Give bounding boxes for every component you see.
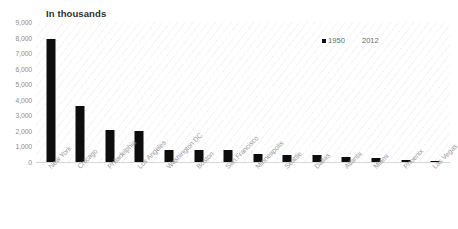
chart-legend: 19502012 [322,36,379,45]
y-axis-tick: 3,000 [15,112,32,119]
y-axis-tick: 5,000 [15,81,32,88]
bar-group [95,22,125,162]
y-axis-tick: 2,000 [15,127,32,134]
bar-group [36,22,66,162]
legend-label: 1950 [328,36,345,45]
x-axis: New YorkChicagoPhiladelphiaLos AngelesWa… [36,163,450,225]
chart-title: In thousands [46,8,106,19]
y-axis-tick: 8,000 [15,34,32,41]
y-axis-tick: 1,000 [15,143,32,150]
y-axis-tick: 6,000 [15,65,32,72]
legend-swatch-icon [322,39,326,43]
bar-chart: In thousands 9,0008,0007,0006,0005,0004,… [0,0,458,229]
bar-group [420,22,450,162]
bars-layer [36,22,450,162]
y-axis-tick: 9,000 [15,19,32,26]
y-axis-tick: 7,000 [15,50,32,57]
legend-swatch-icon [356,39,360,43]
bar-group [213,22,243,162]
y-axis-tick: 0 [28,159,32,166]
bar-group [391,22,421,162]
bar-group [66,22,96,162]
legend-label: 2012 [362,36,379,45]
bar-1950 [76,106,85,162]
legend-item: 1950 [322,36,345,45]
bar-1950 [46,39,55,162]
y-axis-tick: 4,000 [15,96,32,103]
legend-item: 2012 [356,36,379,45]
y-axis: 9,0008,0007,0006,0005,0004,0003,0002,000… [0,22,34,162]
